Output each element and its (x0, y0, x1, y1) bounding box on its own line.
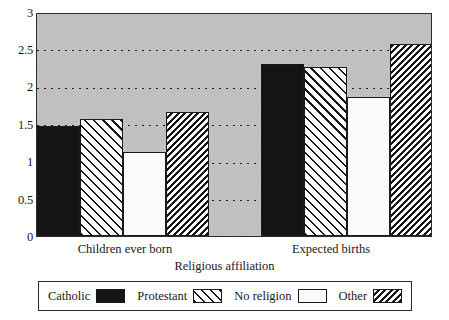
bar-children-no-religion (123, 152, 166, 236)
legend: Catholic Protestant No religion Other (38, 281, 412, 311)
y-tick-label-0-5: 0.5 (0, 194, 33, 206)
bar-children-other (166, 112, 209, 236)
legend-swatch-no-religion (298, 289, 327, 303)
legend-label-protestant: Protestant (137, 289, 187, 303)
bar-expected-other (390, 44, 432, 236)
category-label-expected-births: Expected births (266, 242, 396, 256)
x-axis-title: Religious affiliation (0, 259, 449, 273)
bar-expected-protestant (304, 67, 347, 236)
gridline-2-5 (37, 50, 431, 51)
legend-label-no-religion: No religion (234, 289, 291, 303)
legend-swatch-other (373, 289, 402, 303)
y-tick-label-2: 2 (0, 81, 33, 93)
legend-swatch-protestant (193, 289, 222, 303)
y-tick-label-1-5: 1.5 (0, 119, 33, 131)
category-label-children-ever-born: Children ever born (50, 242, 200, 256)
legend-item-other: Other (339, 289, 402, 303)
y-tick-label-1: 1 (0, 156, 33, 168)
y-tick-label-3: 3 (0, 7, 33, 19)
bar-children-catholic (37, 126, 80, 236)
legend-label-other: Other (339, 289, 367, 303)
bar-expected-catholic (261, 64, 304, 236)
plot-area (36, 13, 432, 237)
legend-item-no-religion: No religion (234, 289, 326, 303)
legend-item-catholic: Catholic (48, 289, 125, 303)
y-tick-label-0: 0 (0, 231, 33, 243)
legend-label-catholic: Catholic (48, 289, 90, 303)
legend-swatch-catholic (96, 289, 125, 303)
gridline-2 (37, 88, 431, 89)
bar-expected-no-religion (347, 97, 390, 236)
legend-item-protestant: Protestant (137, 289, 222, 303)
bar-chart: 3 2.5 2 1.5 1 0.5 0 Children ever born E… (0, 0, 449, 320)
bar-children-protestant (80, 119, 123, 236)
y-tick-label-2-5: 2.5 (0, 44, 33, 56)
